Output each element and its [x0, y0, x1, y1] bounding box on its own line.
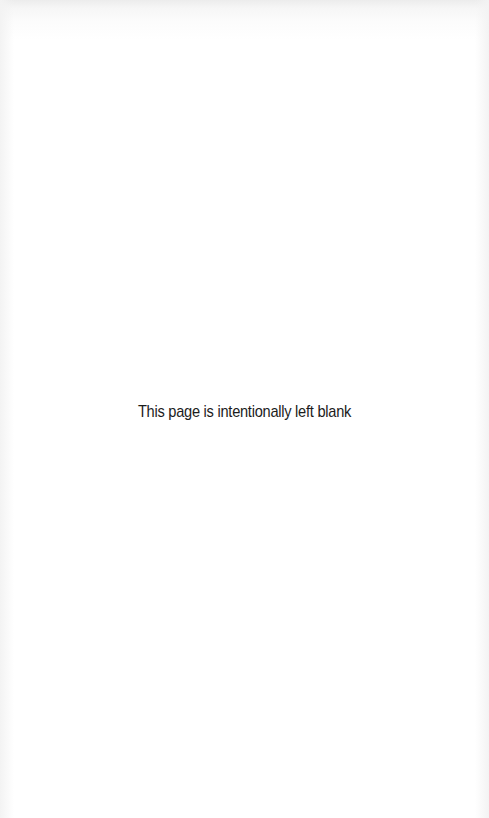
blank-page-notice: This page is intentionally left blank	[34, 402, 455, 422]
page-edge-shadow-left	[0, 0, 14, 818]
page-edge-shadow-right	[475, 0, 489, 818]
document-page: This page is intentionally left blank	[0, 0, 489, 818]
